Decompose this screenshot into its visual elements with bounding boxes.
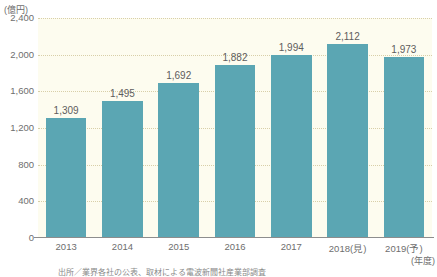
bar-value-label: 2,112 <box>315 31 380 42</box>
x-axis-unit-label: (年度) <box>411 254 435 267</box>
y-axis-tick-label: 1,600 <box>0 85 34 96</box>
bar-group: 1,882 <box>215 18 256 238</box>
bar <box>102 101 143 238</box>
x-axis-line <box>34 237 434 238</box>
x-axis-tick-label: 2018(見) <box>319 241 375 255</box>
bar-value-label: 1,994 <box>259 42 324 53</box>
x-axis-tick-label: 2017 <box>263 241 319 252</box>
y-axis-tick-label: 2,000 <box>0 49 34 60</box>
bar-group: 1,309 <box>46 18 87 238</box>
bar <box>46 118 87 238</box>
bar <box>271 55 312 238</box>
bar-group: 1,495 <box>102 18 143 238</box>
y-axis-tick-labels: 04008001,2001,6002,0002,400 <box>0 18 34 238</box>
x-axis-tick-label: 2016 <box>207 241 263 252</box>
y-axis-tick-label: 400 <box>0 195 34 206</box>
x-axis-tick-label: 2013 <box>38 241 94 252</box>
bar-group: 2,112 <box>327 18 368 238</box>
bar <box>384 57 425 238</box>
bar-group: 1,973 <box>384 18 425 238</box>
bar <box>327 44 368 238</box>
x-axis-tick-label: 2015 <box>151 241 207 252</box>
x-axis-tick-labels: 201320142015201620172018(見)2019(予) <box>38 241 432 257</box>
bar <box>215 65 256 238</box>
bar-value-label: 1,309 <box>34 105 99 116</box>
bar-value-label: 1,692 <box>146 70 211 81</box>
y-axis-tick-label: 0 <box>0 232 34 243</box>
y-axis-tick-label: 2,400 <box>0 12 34 23</box>
bar <box>158 83 199 238</box>
bar-value-label: 1,973 <box>372 44 437 55</box>
x-axis-tick-label: 2019(予) <box>376 241 432 255</box>
bar-value-label: 1,495 <box>90 88 155 99</box>
bar-group: 1,692 <box>158 18 199 238</box>
source-note: 出所／業界各社の公表、取材による電波新聞社産業部調査 <box>58 266 266 277</box>
y-axis-tick-label: 1,200 <box>0 122 34 133</box>
bar-group: 1,994 <box>271 18 312 238</box>
y-axis-tick-label: 800 <box>0 159 34 170</box>
bar-series: 1,3091,4951,6921,8821,9942,1121,973 <box>38 18 432 238</box>
bar-value-label: 1,882 <box>203 52 268 63</box>
x-axis-tick-label: 2014 <box>94 241 150 252</box>
